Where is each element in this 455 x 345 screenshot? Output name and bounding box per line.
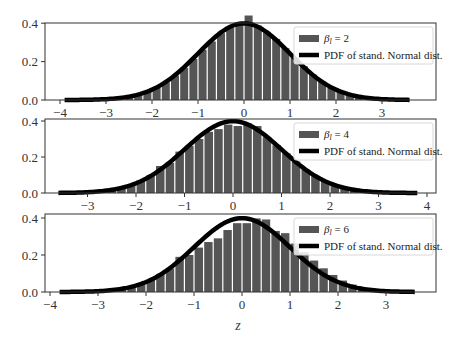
legend-label-pdf: PDF of stand. Normal dist.	[324, 240, 443, 252]
histogram-bar	[245, 16, 253, 100]
x-tick-label: −4	[43, 297, 57, 312]
x-tick-label: −1	[178, 198, 192, 213]
x-tick-label: 2	[335, 297, 342, 312]
histogram-bar	[263, 32, 271, 100]
x-tick-label: 1	[287, 105, 294, 120]
histogram-bar	[214, 129, 223, 193]
histogram-bar	[253, 126, 262, 193]
histogram-bar	[272, 39, 280, 100]
histogram-bar	[254, 26, 262, 101]
y-tick-label: 0.0	[22, 285, 38, 300]
histogram-bar	[204, 242, 212, 292]
x-tick-label: −2	[139, 297, 153, 312]
y-axis-ticks: 0.00.20.4	[22, 114, 45, 201]
y-tick-label: 0.4	[22, 16, 39, 31]
legend-bar-swatch	[299, 131, 319, 138]
histogram-bar	[233, 223, 241, 292]
legend: βl = 6PDF of stand. Normal dist.	[294, 218, 443, 255]
y-tick-label: 0.0	[22, 93, 38, 108]
x-tick-label: 1	[278, 198, 285, 213]
x-tick-label: 3	[383, 297, 390, 312]
histogram-bar	[223, 230, 231, 292]
x-tick-label: −3	[99, 105, 113, 120]
histogram-bar	[252, 218, 260, 292]
histogram-bar	[195, 139, 204, 193]
legend-label-pdf: PDF of stand. Normal dist.	[324, 49, 443, 61]
legend: βl = 2PDF of stand. Normal dist.	[294, 27, 443, 64]
x-axis-label: z	[234, 318, 241, 333]
x-tick-label: −3	[81, 198, 95, 213]
y-axis-ticks: 0.00.20.4	[22, 211, 45, 300]
panel-1: 0.00.20.4 −4−3−2−10123 βl = 2PDF of stan…	[22, 16, 443, 120]
histogram-bar	[214, 238, 222, 292]
y-tick-label: 0.2	[22, 54, 38, 69]
x-tick-label: 0	[241, 105, 248, 120]
figure: 0.00.20.4 −4−3−2−10123 βl = 2PDF of stan…	[0, 0, 455, 345]
x-tick-label: −1	[191, 105, 205, 120]
legend-label-beta: βl = 4	[323, 128, 349, 142]
y-tick-label: 0.4	[22, 211, 39, 226]
y-tick-label: 0.4	[22, 114, 39, 129]
x-tick-label: −1	[187, 297, 201, 312]
histogram-bar	[205, 132, 214, 193]
x-tick-label: 3	[379, 105, 386, 120]
x-tick-label: 2	[327, 198, 334, 213]
histogram-bar	[226, 27, 234, 100]
histogram-bar	[189, 59, 197, 100]
legend-bar-swatch	[299, 226, 319, 233]
histogram-bar	[281, 48, 289, 100]
y-tick-label: 0.2	[22, 248, 38, 263]
x-tick-label: −2	[129, 198, 143, 213]
histogram-bar	[234, 126, 243, 193]
x-tick-label: 0	[239, 297, 246, 312]
y-axis-ticks: 0.00.20.4	[22, 16, 45, 108]
histogram-bar	[272, 145, 281, 193]
legend-label-beta: βl = 2	[323, 32, 349, 46]
histogram-bar	[243, 223, 251, 292]
histogram-bar	[263, 137, 272, 193]
histogram-bar	[243, 123, 252, 193]
x-tick-label: 4	[424, 198, 431, 213]
panel-3: 0.00.20.4 −4−3−2−10123 βl = 6PDF of stan…	[22, 211, 443, 313]
histogram-bar	[217, 33, 225, 100]
histogram-bar	[199, 50, 207, 100]
x-tick-label: −2	[145, 105, 159, 120]
x-tick-label: −4	[53, 105, 67, 120]
x-axis-ticks: −3−2−101234	[81, 193, 431, 213]
y-tick-label: 0.0	[22, 186, 38, 201]
x-tick-label: 2	[333, 105, 340, 120]
histogram-bar	[185, 146, 194, 193]
legend-bar-swatch	[299, 35, 319, 42]
legend-label-beta: βl = 6	[323, 223, 349, 237]
x-axis-ticks: −4−3−2−10123	[53, 100, 385, 120]
y-tick-label: 0.2	[22, 150, 38, 165]
histogram-bar	[271, 231, 279, 292]
histogram-bar	[208, 41, 216, 100]
legend-label-pdf: PDF of stand. Normal dist.	[324, 145, 443, 157]
histogram-bar	[195, 248, 203, 292]
legend: βl = 4PDF of stand. Normal dist.	[294, 123, 443, 160]
histogram-bar	[185, 255, 193, 292]
x-tick-label: 3	[375, 198, 382, 213]
histogram-bar	[224, 125, 233, 193]
x-axis-ticks: −4−3−2−10123	[43, 292, 389, 312]
x-tick-label: 0	[230, 198, 237, 213]
x-tick-label: −3	[91, 297, 105, 312]
histogram-bar	[235, 25, 243, 100]
panel-2: 0.00.20.4 −3−2−101234 βl = 4PDF of stand…	[22, 114, 443, 214]
x-tick-label: 1	[287, 297, 294, 312]
